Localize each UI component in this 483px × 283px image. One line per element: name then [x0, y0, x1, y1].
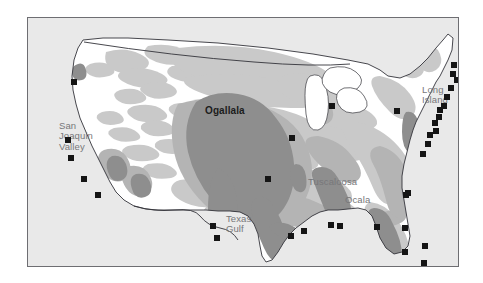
marker-fl-keys [421, 260, 427, 266]
marker-ogallala-e [289, 135, 295, 141]
marker-fl-south [422, 243, 428, 249]
marker-carolina-1 [420, 151, 426, 157]
marker-ny-harbor [436, 114, 442, 120]
marker-west-tx-n [210, 223, 216, 229]
marker-ohio-valley [394, 108, 400, 114]
marker-cape-cod [454, 77, 459, 83]
land-base [28, 18, 458, 266]
marker-socal [95, 192, 101, 198]
marker-san-joaquin-n [65, 137, 71, 143]
marker-gulf-coast-la [301, 228, 307, 234]
marker-west-tx-s [214, 235, 220, 241]
marker-central-plains [265, 176, 271, 182]
figure-root: San Joaquin Valley Ogallala Tuscaloosa O… [0, 0, 483, 283]
marker-san-joaquin-s [68, 155, 74, 161]
marker-ct [444, 94, 450, 100]
marker-long-island-e [441, 103, 447, 109]
marker-ri [448, 85, 454, 91]
marker-texas-gulf-coast [288, 233, 294, 239]
marker-carolina-2 [425, 141, 431, 147]
marker-ma-north [450, 71, 456, 77]
map-frame: San Joaquin Valley Ogallala Tuscaloosa O… [27, 17, 459, 267]
marker-fl-central [402, 225, 408, 231]
us-aquifer-map [28, 18, 458, 266]
marker-pacific-nw [71, 79, 77, 85]
marker-gulf-coast-ms [328, 222, 334, 228]
marker-se-coast [405, 190, 411, 196]
marker-nj [432, 120, 438, 126]
marker-central-coast [81, 176, 87, 182]
marker-delmarva [433, 128, 439, 134]
marker-nh [451, 62, 457, 68]
marker-gulf-coast-al [337, 223, 343, 229]
marker-fl-west [402, 249, 408, 255]
marker-ocala-fl [374, 224, 380, 230]
marker-lake-michigan [329, 103, 335, 109]
